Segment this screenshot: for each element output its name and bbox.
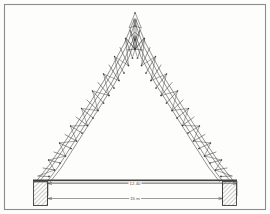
left-leg-truss — [37, 19, 137, 182]
sheet-border — [5, 5, 266, 210]
right-foundation — [223, 182, 237, 206]
clear-span-dimension-label: 12.40 — [129, 181, 142, 185]
right-leg-truss — [134, 19, 234, 182]
left-foundation — [34, 182, 48, 206]
drawing-sheet: 12.40 15 m — [0, 0, 270, 214]
overall-span-dimension-label: 15 m — [129, 196, 141, 200]
upper-dimension-line — [48, 181, 237, 196]
